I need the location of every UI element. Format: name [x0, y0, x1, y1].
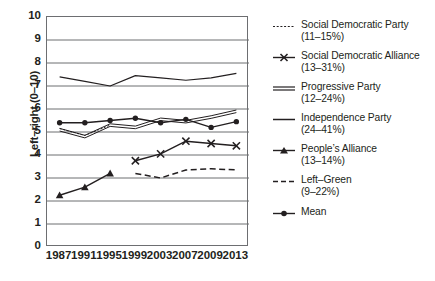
legend-label-range: (9–22%)	[301, 186, 352, 198]
legend-swatch-solid-x-icon	[272, 51, 296, 64]
legend-label: Progressive Party(12–24%)	[301, 81, 381, 105]
series-mean	[57, 116, 239, 131]
legend-label: Left–Green(9–22%)	[301, 174, 352, 198]
legend-label-name: Left–Green	[301, 174, 352, 186]
legend-swatch-dashed-icon	[272, 175, 296, 188]
y-tick-label: 10	[17, 9, 41, 21]
series-social-democratic-alliance	[132, 138, 240, 165]
legend-item[interactable]: Social Democratic Alliance(13–31%)	[272, 50, 435, 74]
legend-label-range: (13–14%)	[301, 155, 377, 167]
legend-swatch-dotted-icon	[272, 20, 296, 33]
legend-label-name: Progressive Party	[301, 81, 381, 93]
y-tick-label: 1	[17, 216, 41, 228]
series-independence-party	[60, 73, 237, 86]
y-tick-label: 9	[17, 32, 41, 44]
legend-label: Mean	[301, 206, 326, 218]
legend-label-range: (11–15%)	[301, 31, 409, 43]
legend-label-name: People’s Alliance	[301, 143, 377, 155]
y-tick-label: 3	[17, 170, 41, 182]
chart-figure: Left–right (0–10) 012345678910 198719911…	[0, 0, 435, 281]
legend-label-name: Independence Party	[301, 112, 391, 124]
legend-label: Social Democratic Party(11–15%)	[301, 19, 409, 43]
legend-label-range: (24–41%)	[301, 124, 391, 136]
legend-swatch-double-icon	[272, 82, 296, 95]
plot-area	[46, 16, 248, 246]
y-tick-label: 7	[17, 78, 41, 90]
y-tick-label: 6	[17, 101, 41, 113]
legend-label: Independence Party(24–41%)	[301, 112, 391, 136]
y-tick-label: 4	[17, 147, 41, 159]
legend-label: People’s Alliance(13–14%)	[301, 143, 377, 167]
legend-item[interactable]: Independence Party(24–41%)	[272, 112, 435, 136]
legend-item[interactable]: People’s Alliance(13–14%)	[272, 143, 435, 167]
legend-swatch-solid-dot-icon	[272, 207, 296, 220]
legend-item[interactable]: Mean	[272, 206, 435, 220]
y-tick-label: 0	[17, 239, 41, 251]
legend-label-range: (13–31%)	[301, 62, 420, 74]
legend-item[interactable]: Left–Green(9–22%)	[272, 174, 435, 198]
y-tick-label: 8	[17, 55, 41, 67]
plot-canvas	[47, 17, 249, 247]
legend-label: Social Democratic Alliance(13–31%)	[301, 50, 420, 74]
legend-label-range: (12–24%)	[301, 93, 381, 105]
series-left-green	[135, 169, 236, 178]
legend-swatch-solid-triangle-icon	[272, 144, 296, 157]
legend-label-name: Social Democratic Party	[301, 19, 409, 31]
legend-item[interactable]: Progressive Party(12–24%)	[272, 81, 435, 105]
x-tick-label: 2013	[218, 249, 252, 261]
y-tick-label: 2	[17, 193, 41, 205]
legend-swatch-solid-icon	[272, 113, 296, 126]
series-people-s-alliance	[56, 170, 114, 199]
chart-legend: Social Democratic Party(11–15%)Social De…	[272, 19, 435, 227]
legend-item[interactable]: Social Democratic Party(11–15%)	[272, 19, 435, 43]
legend-label-name: Mean	[301, 206, 326, 218]
legend-label-name: Social Democratic Alliance	[301, 50, 420, 62]
y-tick-label: 5	[17, 124, 41, 136]
